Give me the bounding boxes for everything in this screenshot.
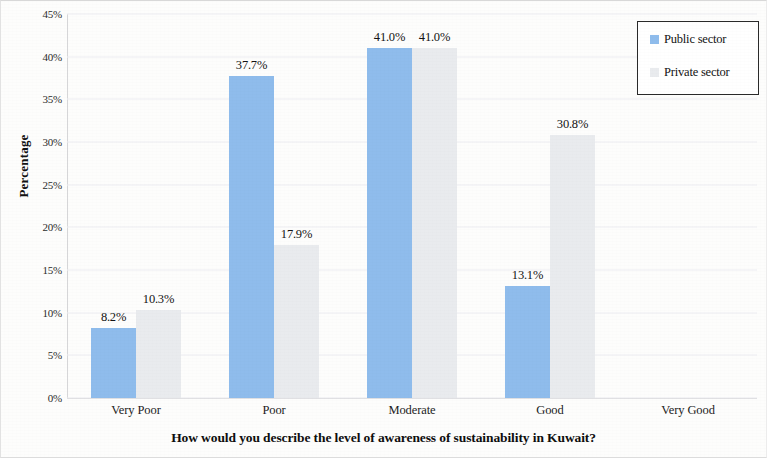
bar-private-sector[interactable] (412, 48, 457, 398)
x-axis-tick-label: Very Poor (67, 403, 205, 418)
y-axis-tick-label: 10% (26, 307, 62, 319)
bar-private-sector[interactable] (136, 310, 181, 398)
y-axis-tick-label: 35% (26, 93, 62, 105)
bar-chart: Percentage 0%5%10%15%20%25%30%35%40%45% … (0, 0, 767, 458)
bar-private-sector[interactable] (550, 135, 595, 398)
chart-legend: Public sectorPrivate sector (637, 21, 759, 95)
x-axis-tick-label: Moderate (343, 403, 481, 418)
bar-public-sector[interactable] (367, 48, 412, 398)
x-axis-tick-label: Good (481, 403, 619, 418)
bar-value-label: 41.0% (404, 30, 465, 45)
bar-value-label: 8.2% (83, 310, 144, 325)
y-axis-tick-label: 20% (26, 221, 62, 233)
y-axis-title: Percentage (16, 96, 32, 236)
bar-public-sector[interactable] (91, 328, 136, 398)
legend-swatch-icon (650, 35, 659, 44)
legend-label: Public sector (664, 32, 726, 47)
bar-public-sector[interactable] (505, 286, 550, 398)
y-axis-tick-label: 30% (26, 136, 62, 148)
bar-group: 41.0%41.0% (367, 14, 457, 398)
x-axis-tick-label: Very Good (619, 403, 757, 418)
y-axis-tick-label: 45% (26, 8, 62, 20)
legend-swatch-icon (650, 68, 659, 77)
bar-value-label: 17.9% (266, 227, 327, 242)
bar-group: 37.7%17.9% (229, 14, 319, 398)
y-axis-tick-label: 15% (26, 264, 62, 276)
x-axis-tick-label: Poor (205, 403, 343, 418)
bar-value-label: 37.7% (221, 58, 282, 73)
bar-value-label: 13.1% (497, 268, 558, 283)
bar-group: 13.1%30.8% (505, 14, 595, 398)
legend-item[interactable]: Public sector (650, 32, 726, 47)
x-axis-title: How would you describe the level of awar… (0, 430, 767, 446)
bar-group: 8.2%10.3% (91, 14, 181, 398)
bar-value-label: 30.8% (542, 117, 603, 132)
y-axis-tick-label: 40% (26, 51, 62, 63)
y-axis-tick-label: 0% (26, 392, 62, 404)
y-axis-tick-label: 25% (26, 179, 62, 191)
y-axis-tick-label: 5% (26, 349, 62, 361)
legend-item[interactable]: Private sector (650, 65, 730, 80)
bar-value-label: 10.3% (128, 292, 189, 307)
legend-label: Private sector (664, 65, 730, 80)
bar-private-sector[interactable] (274, 245, 319, 398)
